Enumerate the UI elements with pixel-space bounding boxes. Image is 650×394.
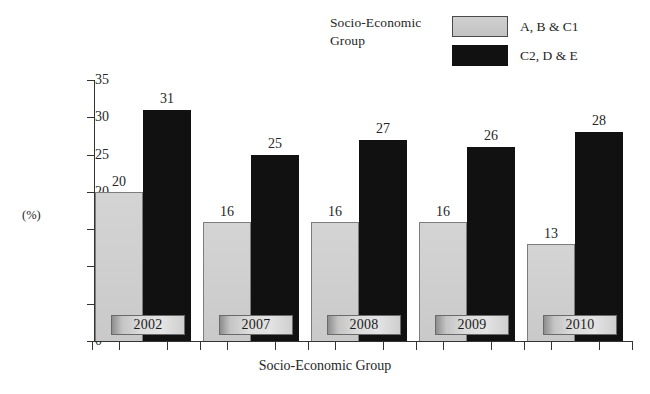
x-tick xyxy=(119,341,120,350)
bar-value-label: 16 xyxy=(436,204,450,220)
x-axis-line xyxy=(94,341,633,342)
legend-label-a-b-c1: A, B & C1 xyxy=(520,17,579,36)
x-tick xyxy=(443,341,444,350)
bar: 31 xyxy=(143,110,191,341)
x-tick xyxy=(383,341,384,350)
x-tick-group-boundary xyxy=(524,341,525,350)
y-axis-label: (%) xyxy=(22,208,41,223)
x-tick-group-boundary xyxy=(632,341,633,350)
bar-chart: Socio-Economic Group A, B & C1 C2, D & E… xyxy=(0,0,650,394)
x-axis-title: Socio-Economic Group xyxy=(0,358,650,374)
legend-label-c2-d-e: C2, D & E xyxy=(520,46,578,65)
legend-swatch-black xyxy=(452,45,508,66)
y-tick xyxy=(87,229,94,230)
bar-value-label: 27 xyxy=(376,121,390,137)
x-tick xyxy=(227,341,228,350)
y-tick xyxy=(87,304,94,305)
x-tick xyxy=(275,341,276,350)
bar-value-label: 25 xyxy=(268,136,282,152)
x-tick-group-boundary xyxy=(92,341,93,350)
bar: 27 xyxy=(359,140,407,341)
bar: 26 xyxy=(467,147,515,341)
category-label-2008: 2008 xyxy=(327,315,401,335)
y-tick xyxy=(87,80,94,81)
bar-value-label: 28 xyxy=(592,113,606,129)
category-label-2009: 2009 xyxy=(435,315,509,335)
x-tick-group-boundary xyxy=(200,341,201,350)
bar: 25 xyxy=(251,155,299,341)
y-tick xyxy=(87,266,94,267)
legend-swatch-light-gray xyxy=(452,16,508,37)
y-tick xyxy=(87,192,94,193)
x-tick xyxy=(335,341,336,350)
y-tick xyxy=(87,117,94,118)
x-tick xyxy=(491,341,492,350)
bar: 28 xyxy=(575,132,623,341)
x-tick-group-boundary xyxy=(308,341,309,350)
y-tick xyxy=(87,155,94,156)
bar-value-label: 20 xyxy=(112,174,126,190)
bar-value-label: 26 xyxy=(484,128,498,144)
bar-value-label: 13 xyxy=(544,226,558,242)
bar-value-label: 31 xyxy=(160,91,174,107)
chart-legend: Socio-Economic Group A, B & C1 C2, D & E xyxy=(330,14,640,76)
category-label-2002: 2002 xyxy=(111,315,185,335)
x-tick xyxy=(599,341,600,350)
legend-title: Socio-Economic Group xyxy=(330,14,450,50)
bar-value-label: 16 xyxy=(328,204,342,220)
bar-value-label: 16 xyxy=(220,204,234,220)
category-label-2010: 2010 xyxy=(543,315,617,335)
x-tick-group-boundary xyxy=(416,341,417,350)
plot-area: 05101520253035 20311625162716261328 2002… xyxy=(95,80,633,341)
category-label-2007: 2007 xyxy=(219,315,293,335)
x-tick xyxy=(551,341,552,350)
x-tick xyxy=(167,341,168,350)
